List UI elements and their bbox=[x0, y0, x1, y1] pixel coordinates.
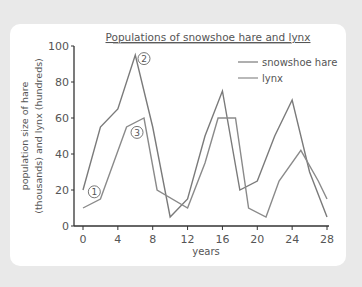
y-tick-label: 0 bbox=[62, 220, 69, 233]
x-tick-label: 8 bbox=[149, 233, 156, 246]
annotation-label: 1 bbox=[91, 187, 97, 197]
annotation-label: 3 bbox=[134, 128, 140, 138]
series-line-snowshoe-hare bbox=[83, 55, 327, 217]
y-axis-label: population size of hare(thousands) and l… bbox=[19, 58, 44, 214]
x-tick-label: 28 bbox=[320, 233, 334, 246]
y-axis-label-line: (thousands) and lynx (hundreds) bbox=[33, 58, 44, 214]
y-tick-label: 80 bbox=[55, 76, 69, 89]
annotation-label: 2 bbox=[141, 54, 147, 64]
x-tick-label: 24 bbox=[285, 233, 299, 246]
legend-label: snowshoe hare bbox=[262, 57, 337, 68]
legend-label: lynx bbox=[262, 73, 283, 84]
x-axis-label: years bbox=[192, 246, 220, 257]
y-tick-label: 20 bbox=[55, 184, 69, 197]
y-tick-label: 60 bbox=[55, 112, 69, 125]
x-tick-label: 20 bbox=[250, 233, 264, 246]
y-axis-label-line: population size of hare bbox=[19, 82, 30, 191]
y-tick-label: 40 bbox=[55, 148, 69, 161]
x-tick-label: 0 bbox=[80, 233, 87, 246]
x-tick-label: 16 bbox=[215, 233, 229, 246]
x-tick-label: 4 bbox=[114, 233, 121, 246]
series-line-lynx bbox=[83, 118, 327, 217]
x-tick-label: 12 bbox=[181, 233, 195, 246]
y-tick-label: 100 bbox=[48, 40, 69, 53]
population-line-chart: Populations of snowshoe hare and lynx020… bbox=[0, 0, 362, 287]
chart-title: Populations of snowshoe hare and lynx bbox=[106, 31, 311, 43]
